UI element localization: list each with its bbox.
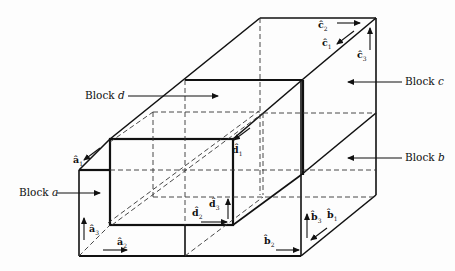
block-d-word: Block bbox=[85, 89, 115, 101]
vector-a2-label: â2 bbox=[117, 237, 127, 249]
vector-b2-label: b̂2 bbox=[264, 236, 274, 248]
block-c-letter: c bbox=[438, 75, 444, 87]
vector-a1-label: â1 bbox=[73, 155, 83, 167]
block-a-letter: a bbox=[52, 186, 58, 198]
block-a-label: Block a bbox=[19, 187, 58, 198]
vector-c1-label: ĉ1 bbox=[322, 38, 332, 50]
vector-d3-label: d̂3 bbox=[209, 199, 219, 211]
block-b-word: Block bbox=[405, 151, 435, 163]
block-a-word: Block bbox=[19, 186, 49, 198]
block-c-word: Block bbox=[405, 75, 435, 87]
vector-b1-label: b̂1 bbox=[327, 210, 337, 222]
diagram-lines bbox=[0, 0, 455, 271]
vector-d1-label: d̂1 bbox=[232, 145, 242, 157]
block-diagram: Block d Block a Block c Block b ĉ2 ĉ1 ĉ3… bbox=[0, 0, 455, 271]
vector-d2-label: d̂2 bbox=[192, 208, 202, 220]
block-b-letter: b bbox=[438, 151, 445, 163]
block-d-label: Block d bbox=[85, 90, 125, 101]
vector-c3-label: ĉ3 bbox=[357, 50, 367, 62]
vector-a3-label: â3 bbox=[89, 224, 99, 236]
vector-b3-label: b̂3 bbox=[311, 212, 321, 224]
block-b-label: Block b bbox=[405, 152, 445, 163]
block-d-letter: d bbox=[118, 89, 125, 101]
block-c-label: Block c bbox=[405, 76, 444, 87]
vector-c2-label: ĉ2 bbox=[318, 20, 328, 32]
